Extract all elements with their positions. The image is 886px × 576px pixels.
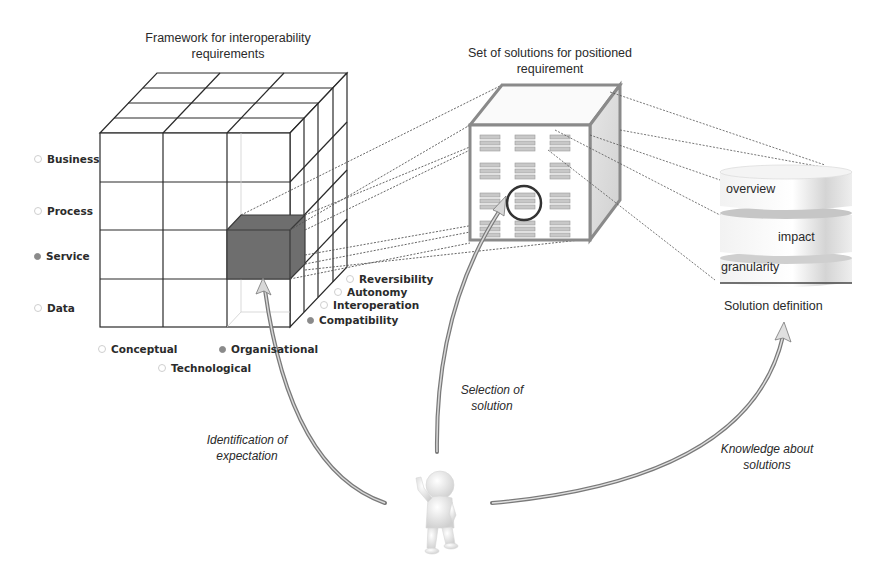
radio-icon [34,207,42,215]
column-option-conceptual[interactable]: Conceptual [98,343,177,355]
radio-icon [34,304,42,312]
knowledge-arrow [492,322,791,503]
depth-option-reversibility[interactable]: Reversibility [346,273,433,285]
solution-icon [550,135,570,151]
identification-caption: Identification of expectation [188,432,306,464]
framework-cube [100,73,347,327]
solution-icon [480,135,500,151]
row-option-service[interactable]: Service [34,250,90,262]
row-option-process[interactable]: Process [34,205,93,217]
selection-caption: Selection of solution [452,382,532,414]
layer-overview-label: overview [726,182,775,196]
solution-icon [550,163,570,179]
solutions-title: Set of solutions for positioned requirem… [455,45,645,77]
row-option-business[interactable]: Business [34,153,99,165]
radio-selected-icon [34,253,41,260]
depth-option-compatibility[interactable]: Compatibility [307,314,398,326]
solutions-cube [470,85,620,240]
solution-icon [550,221,570,237]
radio-icon [158,364,166,372]
solution-definition-caption: Solution definition [724,299,823,313]
radio-selected-icon [219,346,226,353]
radio-icon [334,288,342,296]
person-thumbs-up-icon [416,471,458,554]
solution-icon [515,221,535,237]
row-option-data[interactable]: Data [34,302,75,314]
layer-granularity-label: granularity [721,260,779,274]
depth-option-interoperation[interactable]: Interoperation [320,299,419,311]
diagram-canvas [0,0,886,576]
radio-icon [320,301,328,309]
solution-icon [550,193,570,209]
layer-impact-label: impact [778,230,815,244]
radio-icon [98,345,106,353]
column-option-technological[interactable]: Technological [158,362,251,374]
highlighted-requirement-cell [227,215,305,279]
radio-icon [34,155,42,163]
depth-option-autonomy[interactable]: Autonomy [334,286,407,298]
solution-icon [480,163,500,179]
solution-icon [515,163,535,179]
solution-icon-selected [515,193,535,209]
knowledge-caption: Knowledge about solutions [712,441,822,473]
framework-title: Framework for interoperability requireme… [138,30,318,62]
column-option-organisational[interactable]: Organisational [219,343,318,355]
radio-icon [346,275,354,283]
solution-icon [515,135,535,151]
radio-selected-icon [307,317,314,324]
